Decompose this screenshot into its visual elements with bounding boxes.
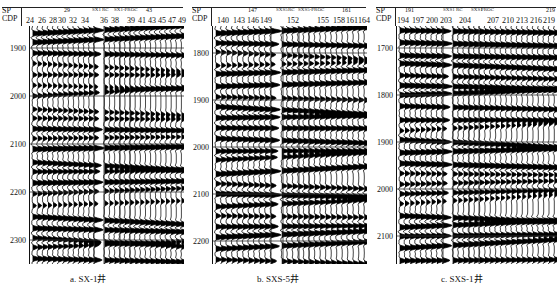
- panel-a-seismic-section: [29, 26, 184, 264]
- sp-value-2: 43: [146, 7, 152, 13]
- cdp-number: 39: [127, 16, 135, 25]
- panel-a-time-axis: 1900 2000 2100 2200 2300: [2, 26, 29, 264]
- sp-value: 29: [64, 7, 70, 13]
- header-axis-divider: [395, 7, 396, 26]
- caption-b: b. SXS-5井: [257, 272, 299, 285]
- sp-value: 147: [248, 7, 257, 13]
- time-tick: 2100: [10, 140, 26, 149]
- cdp-number: 152: [287, 16, 299, 25]
- cdp-number: 41: [138, 16, 146, 25]
- cdp-number: 140: [217, 16, 229, 25]
- sp-value: 191: [405, 7, 414, 13]
- time-tick: 2100: [377, 232, 393, 241]
- sp-value-2: 161: [342, 7, 351, 13]
- cdp-number: 24: [26, 16, 34, 25]
- panel-a-sx1-well: SP CDP 29 SX1 RC SX1-PROC 43 24 26 28 30…: [2, 6, 185, 264]
- cdp-number: 216: [530, 16, 542, 25]
- time-tick: 1800: [193, 49, 209, 58]
- cdp-number: 30: [58, 16, 66, 25]
- well-label-proc: PROC: [481, 7, 494, 12]
- cdp-number: 210: [502, 16, 514, 25]
- cdp-number: 38: [111, 16, 119, 25]
- panel-b-time-axis: 1800 1900 2000 2100 2200: [192, 26, 212, 264]
- well-label-sxs5: SXS5: [276, 7, 288, 12]
- cdp-number: 34: [81, 16, 89, 25]
- cdp-number: 219: [543, 16, 555, 25]
- well-label-sx1: SX1: [92, 7, 101, 12]
- cdp-number: 32: [69, 16, 77, 25]
- well-label-sxs1: SXS1: [443, 7, 455, 12]
- panel-c-time-axis: 1700 1800 1900 2000 2100: [376, 26, 396, 264]
- cdp-number: 197: [412, 16, 424, 25]
- time-tick: 2100: [193, 190, 209, 199]
- time-tick: 2000: [377, 185, 393, 194]
- well-label-proc: SX1-PROC: [114, 7, 138, 12]
- cdp-number: 155: [317, 16, 329, 25]
- time-tick: 2200: [193, 237, 209, 246]
- sp-value-2: 219: [546, 7, 555, 13]
- cdp-number: 28: [49, 16, 57, 25]
- caption-a: a. SX-1井: [70, 272, 107, 285]
- time-tick: 2000: [193, 143, 209, 152]
- time-tick: 1800: [377, 91, 393, 100]
- cdp-number: 47: [168, 16, 176, 25]
- cdp-number: 207: [487, 16, 499, 25]
- cdp-number: 164: [358, 16, 370, 25]
- panel-c-sxs1-well: SP CDP 191 SXS1 RC SXS1 PROC 219 194 197…: [376, 6, 557, 264]
- panel-b-seismic-section: [212, 26, 367, 264]
- cdp-number: 43: [148, 16, 156, 25]
- cdp-number: 36: [100, 16, 108, 25]
- time-tick: 2200: [10, 188, 26, 197]
- time-tick: 2300: [10, 236, 26, 245]
- caption-c: c. SXS-1井: [441, 272, 483, 285]
- well-label-rc: RC: [456, 7, 463, 12]
- time-tick: 1900: [10, 44, 26, 53]
- header-axis-divider: [21, 7, 22, 26]
- cdp-number: 213: [516, 16, 528, 25]
- cdp-number: 203: [440, 16, 452, 25]
- cdp-number: 146: [247, 16, 259, 25]
- time-tick: 1900: [193, 96, 209, 105]
- cdp-label: CDP: [376, 15, 392, 23]
- cdp-number: 26: [38, 16, 46, 25]
- time-tick: 2000: [10, 92, 26, 101]
- cdp-label: CDP: [2, 15, 18, 23]
- cdp-label: CDP: [192, 15, 208, 23]
- well-label-proc: SXS5-PROC: [298, 7, 324, 12]
- header-axis-divider: [211, 7, 212, 26]
- well-label-rc: RC: [288, 7, 295, 12]
- cdp-number: 45: [158, 16, 166, 25]
- header-top-rule: [376, 7, 556, 8]
- cdp-number: 200: [426, 16, 438, 25]
- cdp-number: 143: [233, 16, 245, 25]
- time-tick: 1900: [377, 138, 393, 147]
- panel-c-seismic-section: [396, 26, 557, 264]
- panel-b-sxs5-well: SP CDP 147 SXS5 RC SXS5-PROC 161 140 143…: [192, 6, 368, 264]
- time-tick: 1700: [377, 44, 393, 53]
- cdp-number: 204: [459, 16, 471, 25]
- cdp-number: 158: [333, 16, 345, 25]
- cdp-number: 149: [260, 16, 272, 25]
- well-label-rc: RC: [102, 7, 109, 12]
- cdp-number: 194: [397, 16, 409, 25]
- cdp-number: 49: [178, 16, 186, 25]
- cdp-number: 161: [346, 16, 358, 25]
